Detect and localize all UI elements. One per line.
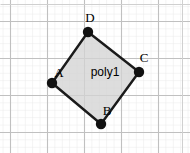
vertex-point-b[interactable] — [96, 119, 106, 129]
polygon-label: poly1 — [91, 65, 120, 79]
graphics-view[interactable]: poly1 A B C D — [0, 0, 190, 153]
geometry-applet: poly1 A B C D — [0, 0, 190, 153]
vertex-label-c: C — [140, 50, 149, 65]
vertex-point-c[interactable] — [134, 67, 144, 77]
vertex-label-b: B — [103, 103, 112, 118]
vertex-label-d: D — [85, 10, 94, 25]
coordinate-plane-svg[interactable]: poly1 A B C D — [0, 0, 190, 153]
vertex-label-a: A — [54, 65, 64, 80]
vertex-point-d[interactable] — [83, 27, 93, 37]
